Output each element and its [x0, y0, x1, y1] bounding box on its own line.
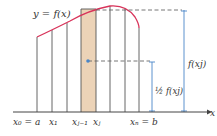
tick-label-x0: x₀ = a [13, 117, 40, 127]
riemann-sum-diagram: y = f(x) x x₀ = a x₁ xⱼ₋₁ xⱼ xₙ = b f(xj… [0, 0, 217, 136]
axis-label: x [210, 108, 215, 118]
f-xj-label: f(xj) [187, 59, 207, 69]
curve-label: y = f(x) [32, 8, 71, 19]
f-xj-measure [181, 10, 187, 112]
tick-label-xj: xⱼ [93, 117, 101, 127]
half-f-xj-label: ½ f(xj) [155, 86, 183, 96]
tick-label-xj-1: xⱼ₋₁ [72, 117, 88, 127]
midpoint-dot [86, 59, 90, 63]
tick-label-x1: x₁ [49, 117, 58, 127]
tick-label-xN: xₙ = b [130, 117, 158, 127]
